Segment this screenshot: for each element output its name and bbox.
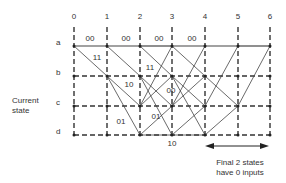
edge-output-label: 00 xyxy=(122,35,131,43)
edge-output-label: 00 xyxy=(86,35,95,43)
column-label: 1 xyxy=(105,13,109,21)
column-label: 2 xyxy=(138,13,142,21)
column-label: 6 xyxy=(268,13,272,21)
column-label: 4 xyxy=(203,13,207,21)
trellis-grid xyxy=(74,27,270,136)
column-label: 5 xyxy=(236,13,240,21)
edge-output-label: 01 xyxy=(117,118,126,126)
edge-output-label: 00 xyxy=(188,35,197,43)
row-label: c xyxy=(56,99,60,107)
row-label: a xyxy=(56,39,60,47)
current-state-label: Current state xyxy=(12,96,39,116)
edge-output-label: 11 xyxy=(146,64,154,72)
final-states-note-line-2: have 0 inputs xyxy=(210,168,270,178)
row-label: d xyxy=(56,128,60,136)
edge-output-label: 01 xyxy=(152,113,161,121)
edge-output-label: 00 xyxy=(155,35,164,43)
column-label: 3 xyxy=(170,13,174,21)
column-label: 0 xyxy=(72,13,76,21)
edge-output-label: 00 xyxy=(167,87,176,95)
final-states-note-line-1: Final 2 states xyxy=(210,158,270,168)
current-state-line-1: Current xyxy=(12,96,39,106)
edge-output-label: 11 xyxy=(93,54,101,62)
final-states-note: Final 2 states have 0 inputs xyxy=(210,158,270,178)
final-states-arrow xyxy=(205,143,269,149)
current-state-line-2: state xyxy=(12,106,39,116)
trellis-diagram xyxy=(0,0,286,183)
edge-output-label: 10 xyxy=(168,140,177,148)
edge-output-label: 10 xyxy=(125,81,134,89)
row-label: b xyxy=(56,69,60,77)
